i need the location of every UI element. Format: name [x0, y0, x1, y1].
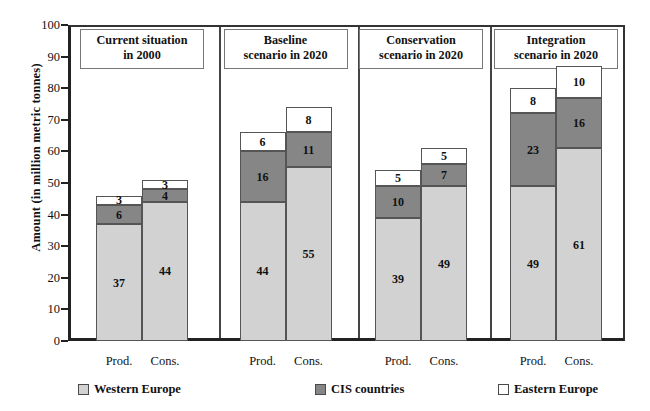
x-axis-label: Cons. [294, 354, 323, 369]
bar-segment-cis-countries[interactable]: 4 [142, 189, 188, 202]
y-tick-label: 0 [30, 335, 60, 348]
bar-value-label: 7 [441, 169, 447, 181]
bar-value-label: 44 [159, 265, 171, 277]
stacked-bar[interactable]: 3444 [142, 180, 188, 341]
y-tick-mark [61, 87, 68, 89]
bar-value-label: 16 [257, 171, 269, 183]
bar-value-label: 61 [573, 239, 585, 251]
chart-legend: Western EuropeCIS countriesEastern Europ… [0, 382, 650, 404]
bar-segment-cis-countries[interactable]: 10 [375, 186, 421, 218]
y-tick-mark [61, 245, 68, 247]
bar-segment-cis-countries[interactable]: 16 [556, 98, 602, 149]
bar-value-label: 10 [573, 76, 585, 88]
y-tick-mark [61, 24, 68, 26]
y-tick-mark [61, 277, 68, 279]
y-tick-mark [61, 308, 68, 310]
panel-header-line2: in 2000 [85, 48, 199, 63]
bar-value-label: 37 [113, 277, 125, 289]
x-axis-label: Cons. [430, 354, 459, 369]
legend-swatch-icon [498, 384, 509, 395]
bar-segment-eastern-europe[interactable]: 5 [375, 170, 421, 186]
stacked-bar[interactable]: 3637 [96, 196, 142, 341]
legend-swatch-icon [78, 384, 89, 395]
bar-segment-eastern-europe[interactable]: 8 [510, 88, 556, 113]
x-axis-label: Prod. [385, 354, 412, 369]
y-tick-label: 80 [30, 82, 60, 95]
legend-item-cis-countries[interactable]: CIS countries [315, 382, 404, 397]
x-axis-label: Prod. [106, 354, 133, 369]
bar-value-label: 5 [395, 172, 401, 184]
stacked-bar[interactable]: 82349 [510, 88, 556, 341]
bar-segment-cis-countries[interactable]: 6 [96, 205, 142, 224]
x-axis-label: Prod. [249, 354, 276, 369]
y-tick-mark [61, 119, 68, 121]
bar-value-label: 23 [527, 144, 539, 156]
bar-value-label: 6 [260, 136, 266, 148]
bar-segment-western-europe[interactable]: 49 [421, 186, 467, 341]
stacked-bar[interactable]: 5749 [421, 148, 467, 341]
bar-segment-western-europe[interactable]: 37 [96, 224, 142, 341]
bar-value-label: 11 [303, 144, 314, 156]
bar-segment-eastern-europe[interactable]: 5 [421, 148, 467, 164]
bar-value-label: 8 [306, 114, 312, 126]
legend-label: CIS countries [331, 382, 404, 397]
bar-value-label: 39 [392, 273, 404, 285]
panel-header-line2: scenario in 2020 [229, 48, 343, 63]
bar-segment-western-europe[interactable]: 49 [510, 186, 556, 341]
bar-segment-cis-countries[interactable]: 7 [421, 164, 467, 186]
y-tick-label: 100 [30, 19, 60, 32]
panel-header-line2: scenario in 2020 [364, 48, 478, 63]
bar-value-label: 49 [527, 258, 539, 270]
stacked-bar[interactable]: 101661 [556, 66, 602, 341]
y-tick-mark [61, 214, 68, 216]
bar-segment-western-europe[interactable]: 44 [142, 202, 188, 341]
bar-segment-western-europe[interactable]: 55 [286, 167, 332, 341]
bar-segment-western-europe[interactable]: 61 [556, 148, 602, 341]
bar-value-label: 5 [441, 150, 447, 162]
bar-segment-eastern-europe[interactable]: 6 [240, 132, 286, 151]
stacked-bar[interactable]: 61644 [240, 132, 286, 341]
panel-header: Integrationscenario in 2020 [494, 29, 618, 69]
stacked-bar[interactable]: 51039 [375, 170, 421, 341]
panel-header-line1: Conservation [364, 33, 478, 48]
y-tick-label: 50 [30, 177, 60, 190]
bar-value-label: 6 [116, 209, 122, 221]
panel-header: Current situationin 2000 [80, 29, 204, 69]
bar-segment-cis-countries[interactable]: 16 [240, 151, 286, 202]
bar-segment-eastern-europe[interactable]: 3 [96, 196, 142, 205]
x-axis-label: Cons. [565, 354, 594, 369]
y-axis-ticks: 1009080706050403020100 [30, 25, 68, 341]
x-axis-label: Prod. [520, 354, 547, 369]
bar-value-label: 4 [162, 190, 168, 202]
y-tick-label: 60 [30, 145, 60, 158]
y-tick-label: 90 [30, 50, 60, 63]
y-tick-mark [61, 182, 68, 184]
bar-segment-eastern-europe[interactable]: 8 [286, 107, 332, 132]
bar-value-label: 55 [303, 248, 315, 260]
stacked-bar[interactable]: 81155 [286, 107, 332, 341]
bar-segment-western-europe[interactable]: 44 [240, 202, 286, 341]
bar-segment-cis-countries[interactable]: 11 [286, 132, 332, 167]
panel-header: Baselinescenario in 2020 [224, 29, 348, 69]
legend-item-eastern-europe[interactable]: Eastern Europe [498, 382, 598, 397]
panel-separator [358, 27, 360, 338]
panel-header: Conservationscenario in 2020 [359, 29, 483, 69]
panel-header-line1: Current situation [85, 33, 199, 48]
bar-segment-eastern-europe[interactable]: 3 [142, 180, 188, 189]
legend-label: Western Europe [94, 382, 181, 397]
bar-segment-cis-countries[interactable]: 23 [510, 113, 556, 186]
bar-value-label: 8 [530, 95, 536, 107]
y-tick-mark [61, 150, 68, 152]
bar-value-label: 16 [573, 117, 585, 129]
bar-segment-western-europe[interactable]: 39 [375, 218, 421, 341]
y-tick-mark [61, 340, 68, 342]
y-tick-mark [61, 56, 68, 58]
bar-value-label: 10 [392, 196, 404, 208]
y-tick-label: 20 [30, 272, 60, 285]
legend-label: Eastern Europe [514, 382, 598, 397]
x-axis-label: Cons. [151, 354, 180, 369]
panel-separator [219, 27, 221, 338]
bar-segment-eastern-europe[interactable]: 10 [556, 66, 602, 98]
legend-item-western-europe[interactable]: Western Europe [78, 382, 181, 397]
bar-value-label: 44 [257, 265, 269, 277]
